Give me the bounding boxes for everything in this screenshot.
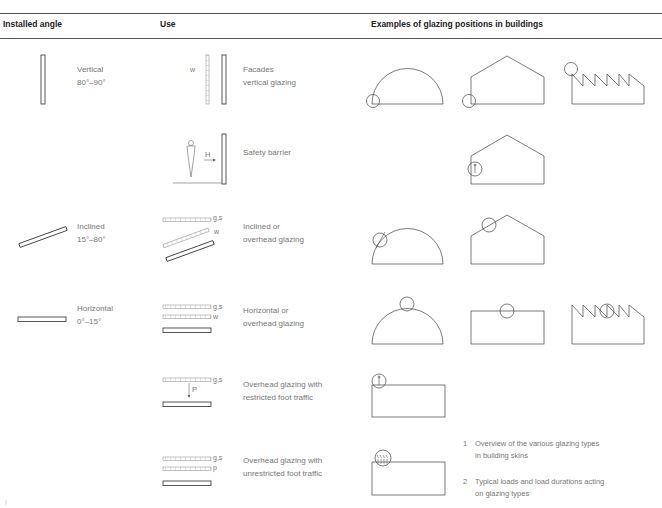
diagram-artwork: [0, 0, 662, 508]
building-flat-restricted-icon: [372, 374, 445, 417]
horizontal-loads-icon: [163, 305, 211, 333]
facade-wind-load-icon: [206, 55, 226, 104]
building-dome-vertical-icon: [367, 68, 444, 107]
safety-barrier-icon: [173, 134, 226, 184]
unrestricted-traffic-loads-icon: [163, 457, 211, 486]
building-flat-horizontal-icon: [471, 304, 544, 344]
building-sawtooth-horizontal-icon: [572, 304, 644, 344]
building-gable-vertical-icon: [463, 56, 545, 108]
inclined-loads-icon: [163, 218, 214, 261]
pane-inclined-icon: [19, 227, 67, 248]
building-dome-inclined-icon: [372, 229, 443, 265]
pane-vertical-icon: [41, 55, 45, 104]
building-dome-horizontal-icon: [372, 297, 443, 344]
building-sawtooth-vertical-icon: [565, 63, 645, 105]
building-gable-inclined-icon: [471, 215, 544, 264]
building-flat-unrestricted-icon: [372, 450, 445, 495]
restricted-traffic-loads-icon: [163, 378, 211, 407]
pane-horizontal-icon: [18, 317, 66, 322]
building-gable-barrier-icon: [468, 135, 544, 184]
